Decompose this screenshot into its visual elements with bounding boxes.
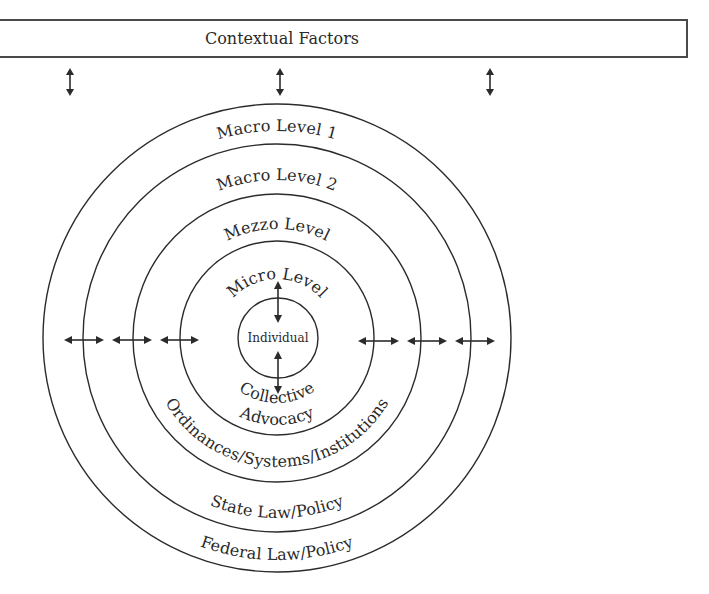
- label-macro-level-1: Macro Level 1: [215, 116, 340, 143]
- label-individual: Individual: [247, 331, 308, 345]
- label-state-law-policy: State Law/Policy: [208, 491, 346, 522]
- label-macro-level-2: Macro Level 2: [214, 165, 340, 195]
- label-collective: Collective: [236, 378, 318, 407]
- label-mezzo-level: Mezzo Level: [221, 214, 333, 245]
- double-arrow-horizontal-left-1-icon: [64, 336, 104, 344]
- double-arrow-micro-individual-top-icon: [274, 281, 282, 323]
- label-federal-law-policy: Federal Law/Policy: [198, 532, 355, 564]
- ecological-levels-diagram: Contextual Factors Macro Level 1 Macro L…: [0, 0, 709, 594]
- contextual-factors-label: Contextual Factors: [205, 29, 359, 48]
- double-arrow-horizontal-left-2-icon: [112, 336, 152, 344]
- double-arrow-horizontal-right-2-icon: [407, 337, 447, 345]
- double-arrow-horizontal-right-1-icon: [358, 337, 399, 345]
- contextual-factors-box: Contextual Factors: [0, 20, 687, 57]
- double-arrow-individual-collective-bottom-icon: [274, 351, 282, 394]
- double-arrow-vertical-right-icon: [486, 68, 494, 96]
- double-arrow-vertical-center-icon: [276, 68, 284, 96]
- double-arrow-horizontal-right-3-icon: [455, 337, 495, 345]
- double-arrow-vertical-left-icon: [66, 68, 74, 96]
